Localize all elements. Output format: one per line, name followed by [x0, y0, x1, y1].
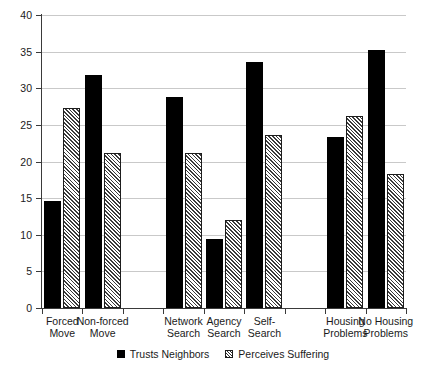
- bar: [225, 220, 242, 308]
- y-tick-label-0: 0: [8, 303, 32, 313]
- bar: [206, 239, 223, 308]
- bar: [185, 153, 202, 308]
- y-tick-mark-10: [36, 235, 42, 236]
- y-tick-label-40: 40: [8, 10, 32, 20]
- bar: [387, 174, 404, 308]
- plot-area: [42, 15, 406, 308]
- legend-entry-1[interactable]: Trusts Neighbors: [117, 348, 210, 360]
- legend-label: Trusts Neighbors: [130, 348, 210, 360]
- legend-swatch-icon: [225, 350, 233, 358]
- y-tick-label-10: 10: [8, 230, 32, 240]
- y-tick-label-25: 25: [8, 120, 32, 130]
- chart-legend: Trusts NeighborsPerceives Suffering: [0, 348, 446, 360]
- y-tick-mark-20: [36, 162, 42, 163]
- category-label-7: No HousingProblems: [350, 316, 422, 339]
- bar: [327, 137, 344, 308]
- bar: [104, 153, 121, 308]
- y-tick-mark-30: [36, 88, 42, 89]
- bar: [246, 62, 263, 308]
- gridline-0: [42, 308, 406, 309]
- bar-group: [206, 15, 242, 308]
- bar: [265, 135, 282, 308]
- y-tick-label-30: 30: [8, 83, 32, 93]
- y-tick-label-35: 35: [8, 47, 32, 57]
- y-tick-mark-25: [36, 125, 42, 126]
- y-tick-label-15: 15: [8, 193, 32, 203]
- bar-chart-figure: 0510152025303540 ForcedMoveNon-forcedMov…: [0, 0, 446, 370]
- category-label-2: Non-forcedMove: [67, 316, 139, 339]
- y-tick-label-20: 20: [8, 157, 32, 167]
- x-tick-mark: [366, 309, 367, 314]
- x-tick-mark: [82, 309, 83, 314]
- bar-group: [246, 15, 282, 308]
- y-tick-mark-40: [36, 15, 42, 16]
- bar: [346, 116, 363, 308]
- x-tick-mark: [42, 309, 43, 314]
- x-tick-mark: [204, 309, 205, 314]
- x-tick-mark: [163, 309, 164, 314]
- legend-label: Perceives Suffering: [238, 348, 329, 360]
- bar-group: [44, 15, 80, 308]
- legend-swatch-icon: [117, 350, 125, 358]
- bar: [44, 201, 61, 308]
- bar-group: [327, 15, 363, 308]
- bar-group: [85, 15, 121, 308]
- x-tick-mark: [123, 309, 124, 314]
- y-tick-label-5: 5: [8, 266, 32, 276]
- bar: [166, 97, 183, 308]
- bar: [368, 50, 385, 308]
- bar-group: [166, 15, 202, 308]
- bar-group: [368, 15, 404, 308]
- category-label-5: Self-Search: [228, 316, 300, 339]
- legend-entry-2[interactable]: Perceives Suffering: [225, 348, 329, 360]
- y-tick-mark-5: [36, 271, 42, 272]
- x-tick-mark: [285, 309, 286, 314]
- x-tick-mark: [406, 309, 407, 314]
- y-tick-mark-15: [36, 198, 42, 199]
- x-tick-mark: [325, 309, 326, 314]
- bar: [85, 75, 102, 308]
- y-tick-mark-35: [36, 52, 42, 53]
- x-tick-mark: [244, 309, 245, 314]
- bar: [63, 108, 80, 308]
